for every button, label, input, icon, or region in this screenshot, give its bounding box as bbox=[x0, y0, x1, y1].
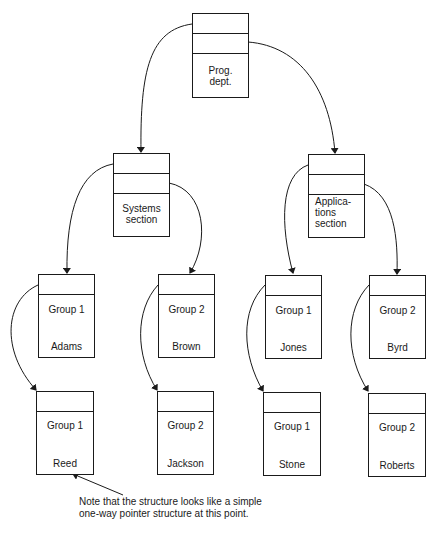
link-applications-to-byrd bbox=[364, 184, 397, 274]
pointer-cell bbox=[369, 394, 425, 414]
link-prog-to-applications bbox=[248, 42, 335, 153]
node-jones: Group 1 Jones bbox=[265, 275, 322, 359]
group-label: Group 2 bbox=[159, 304, 214, 315]
node-systems-section: Systems section bbox=[113, 153, 170, 237]
node-reed: Group 1 Reed bbox=[36, 391, 94, 475]
node-prog-dept: Prog. dept. bbox=[192, 13, 249, 98]
pointer-cell bbox=[264, 393, 320, 413]
link-prog-to-systems bbox=[141, 24, 192, 152]
pointer-cell bbox=[193, 14, 248, 34]
node-stone: Group 1 Stone bbox=[263, 392, 321, 476]
name-label: Jackson bbox=[158, 458, 213, 469]
link-byrd-to-roberts bbox=[351, 285, 369, 391]
node-adams: Group 1 Adams bbox=[38, 274, 95, 358]
node-byrd: Group 2 Byrd bbox=[369, 275, 426, 359]
name-label: Adams bbox=[39, 341, 94, 352]
name-label: Brown bbox=[159, 341, 214, 352]
link-applications-to-jones bbox=[285, 165, 308, 273]
pointer-cell bbox=[309, 155, 364, 175]
pointer-cell bbox=[158, 392, 213, 412]
group-label: Group 2 bbox=[370, 305, 425, 316]
name-label: Jones bbox=[266, 342, 321, 353]
node-applications-section: Applica- tions section bbox=[308, 154, 365, 238]
pointer-cell bbox=[37, 392, 93, 412]
pointer-cell bbox=[114, 174, 169, 194]
name-label: Reed bbox=[37, 458, 93, 469]
pointer-cell bbox=[370, 276, 425, 296]
group-label: Group 1 bbox=[264, 421, 320, 432]
group-label: Group 1 bbox=[39, 304, 94, 315]
pointer-cell bbox=[266, 276, 321, 296]
link-systems-to-adams bbox=[67, 164, 113, 273]
link-jones-to-stone bbox=[247, 285, 265, 391]
group-label: Group 2 bbox=[158, 420, 213, 431]
pointer-cell bbox=[114, 154, 169, 174]
node-brown: Group 2 Brown bbox=[158, 274, 215, 358]
node-jackson: Group 2 Jackson bbox=[157, 391, 214, 475]
name-label: Stone bbox=[264, 459, 320, 470]
group-label: Group 1 bbox=[266, 305, 321, 316]
link-adams-to-reed bbox=[11, 285, 38, 390]
pointer-cell bbox=[159, 275, 214, 295]
group-label: Group 2 bbox=[369, 422, 425, 433]
name-label: Roberts bbox=[369, 460, 425, 471]
name-label: Byrd bbox=[370, 342, 425, 353]
pointer-cell bbox=[39, 275, 94, 295]
pointer-cell bbox=[193, 34, 248, 54]
group-label: Group 1 bbox=[37, 420, 93, 431]
link-systems-to-brown bbox=[169, 183, 202, 273]
node-label: Systems section bbox=[114, 203, 169, 225]
node-label: Applica- tions section bbox=[309, 196, 364, 229]
pointer-cell bbox=[309, 175, 364, 195]
link-brown-to-jackson bbox=[141, 285, 158, 390]
node-roberts: Group 2 Roberts bbox=[368, 393, 426, 477]
node-label: Prog. dept. bbox=[193, 65, 248, 87]
annotation-note: Note that the structure looks like a sim… bbox=[79, 496, 262, 520]
note-arrow bbox=[73, 474, 123, 495]
